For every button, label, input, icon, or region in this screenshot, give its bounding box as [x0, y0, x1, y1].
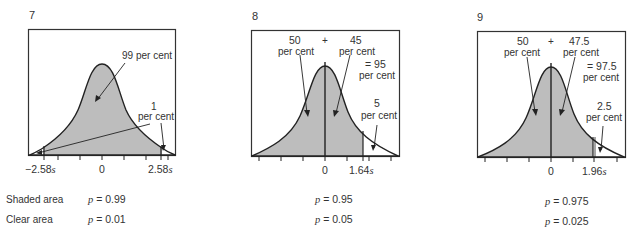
- panel-9-shaded-p: p = 0.975: [545, 195, 589, 207]
- panel-9-25: 2.5: [597, 100, 612, 112]
- panel-9-25-per-cent: per cent: [586, 112, 622, 123]
- panel-9-plus: +: [548, 36, 554, 47]
- panel-9-50-per-cent: per cent: [504, 47, 540, 58]
- panel-9-475: 47.5: [569, 35, 590, 47]
- panel-8-shaded-p: p = 0.95: [315, 193, 353, 205]
- panel-9-clear-p: p = 0.025: [545, 215, 589, 227]
- panel-9-sum: = 97.5: [587, 60, 617, 72]
- panel-9-475-per-cent: per cent: [563, 47, 599, 58]
- panel-7-shaded-p: p = 0.99: [88, 193, 126, 205]
- panel-9-tick-zero: 0: [548, 165, 554, 177]
- shaded-area-label: Shaded area: [6, 194, 63, 205]
- panel-9-tick-196: 1.96s: [582, 165, 607, 177]
- panel-7-clear-p: p = 0.01: [88, 213, 126, 225]
- panel-8-clear-p: p = 0.05: [315, 213, 353, 225]
- panel-9-sum-per-cent: per cent: [583, 72, 619, 83]
- panel-9-50: 50: [517, 35, 529, 47]
- clear-area-label: Clear area: [6, 214, 53, 225]
